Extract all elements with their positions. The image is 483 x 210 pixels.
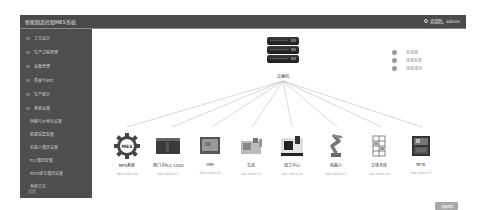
legend-failed: 连接失败 xyxy=(392,56,422,64)
sidebar-subitem-rfid[interactable]: RFID读写通讯设置 xyxy=(30,168,90,177)
sidebar-subitem-network[interactable]: 网络与IP地址设置 xyxy=(30,116,90,125)
device-name: 立体仓库 xyxy=(361,162,397,168)
device-name: RFID xyxy=(403,162,439,167)
status-dot-icon xyxy=(392,66,397,71)
device-hmi[interactable]: HMI 192.168.0.12 xyxy=(192,133,228,175)
device-name: MES系统 xyxy=(109,162,145,168)
app-title: 智能制造控制MES系统 xyxy=(25,18,76,25)
sidebar-item-statistics[interactable]: 生产统计 xyxy=(20,89,92,99)
sidebar-item-process-design[interactable]: 工艺设计 xyxy=(20,33,92,43)
device-rfid[interactable]: RFID 192.168.0.17 xyxy=(403,133,439,175)
legend-success: 连接成功 xyxy=(392,64,422,72)
topology-panel: 交换机 未连接 连接失败 连接成功 xyxy=(92,29,466,198)
menu-icon xyxy=(26,93,30,96)
lathe-icon xyxy=(237,133,265,159)
sidebar-subitem-log[interactable]: 系统日志 xyxy=(30,181,90,190)
sidebar: 工艺设计 生产过程管理 设备管理 质量与SPC 生产统计 系统设置 网络与IP地… xyxy=(20,29,92,198)
device-ip: 192.168.0.16 xyxy=(361,172,397,176)
device-name: 加工中心 xyxy=(274,162,310,168)
warehouse-icon xyxy=(365,133,393,159)
menu-icon xyxy=(26,37,30,40)
app-frame: 智能制造控制MES系统 欢迎您，admin 工艺设计 生产过程管理 设备管理 质… xyxy=(20,15,466,198)
network-switch[interactable] xyxy=(267,37,299,67)
sidebar-item-settings[interactable]: 系统设置 xyxy=(20,103,92,113)
device-name: 西门子PLC 1200 xyxy=(150,162,186,168)
user-label: 欢迎您，admin xyxy=(430,18,460,24)
device-machining-center[interactable]: 加工中心 192.168.0.14 xyxy=(274,133,310,176)
sidebar-collapse-button[interactable] xyxy=(28,189,36,194)
device-lathe[interactable]: 车床 192.168.0.13 xyxy=(233,133,269,176)
machining-center-icon xyxy=(278,133,306,159)
device-ip: 192.168.0.10 xyxy=(109,172,145,176)
device-ip: 192.168.0.12 xyxy=(192,171,228,175)
device-plc[interactable]: 西门子PLC 1200 192.168.0.11 xyxy=(150,133,186,176)
device-warehouse[interactable]: 立体仓库 192.168.0.16 xyxy=(361,133,397,176)
device-mes[interactable]: MES MES系统 192.168.0.10 xyxy=(109,133,145,176)
mes-gear-icon: MES xyxy=(113,133,141,159)
switch-icon xyxy=(267,37,299,45)
svg-text:MES: MES xyxy=(122,144,133,149)
device-ip: 192.168.0.11 xyxy=(150,172,186,176)
device-name: 车床 xyxy=(233,162,269,168)
top-header: 智能制造控制MES系统 欢迎您，admin xyxy=(20,15,466,29)
device-ip: 192.168.0.14 xyxy=(274,172,310,176)
connection-test-button[interactable]: 连接测试 xyxy=(435,202,458,210)
menu-icon xyxy=(26,65,30,68)
switch-label: 交换机 xyxy=(272,73,294,79)
status-dot-icon xyxy=(392,50,397,55)
device-name: 机器人 xyxy=(318,162,354,168)
device-ip: 192.168.0.17 xyxy=(403,171,439,175)
user-icon xyxy=(424,19,428,23)
device-ip: 192.168.0.15 xyxy=(318,172,354,176)
menu-icon xyxy=(26,51,30,54)
sidebar-item-equipment[interactable]: 设备管理 xyxy=(20,61,92,71)
plc-icon xyxy=(154,133,182,159)
rfid-icon xyxy=(407,133,435,159)
status-dot-icon xyxy=(392,58,397,63)
device-name: HMI xyxy=(192,162,228,167)
user-info[interactable]: 欢迎您，admin xyxy=(424,18,460,24)
sidebar-item-production[interactable]: 生产过程管理 xyxy=(20,47,92,57)
hmi-icon xyxy=(196,133,224,159)
sidebar-subitem-plc[interactable]: PLC通讯配置 xyxy=(30,155,90,164)
robot-arm-icon xyxy=(322,133,350,159)
device-robot[interactable]: 机器人 192.168.0.15 xyxy=(318,133,354,176)
menu-icon xyxy=(26,107,30,110)
device-ip: 192.168.0.13 xyxy=(233,172,269,176)
sidebar-subitem-robot[interactable]: 机器人通讯设置 xyxy=(30,142,90,151)
legend-not-connected: 未连接 xyxy=(392,48,422,56)
sidebar-subitem-data-collection[interactable]: 数据采集配置 xyxy=(30,129,90,138)
menu-icon xyxy=(26,79,30,82)
status-legend: 未连接 连接失败 连接成功 xyxy=(392,48,422,72)
sidebar-item-quality[interactable]: 质量与SPC xyxy=(20,75,92,85)
